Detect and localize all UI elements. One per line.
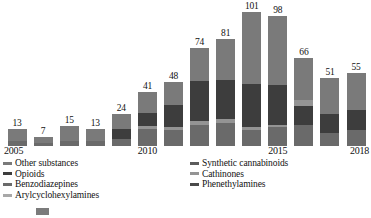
bar-column[interactable]: 15 — [56, 0, 82, 146]
x-axis-tick — [291, 146, 317, 158]
bar-column[interactable]: 13 — [82, 0, 108, 146]
bar-segment — [320, 133, 339, 146]
x-axis-tick — [108, 146, 134, 158]
bar-segment — [242, 130, 261, 146]
bar-segment — [268, 85, 287, 125]
bar-segment — [347, 130, 366, 146]
bar-segment — [294, 106, 313, 125]
bar-stack — [242, 12, 261, 146]
x-axis-tick-label: 2010 — [138, 145, 157, 156]
x-axis-tick: 2018 — [343, 146, 369, 158]
chart-figure: 1371513244148748110198665155 20052010201… — [0, 0, 371, 218]
x-axis-tick: 2005 — [4, 146, 30, 158]
legend-item[interactable]: Benzodiazepines — [3, 179, 99, 190]
bar-value-label: 55 — [352, 62, 361, 72]
legend-column-left: Other substancesOpioidsBenzodiazepinesAr… — [3, 158, 99, 200]
figure-marker-icon — [36, 208, 49, 215]
legend-swatch-icon — [190, 172, 199, 175]
legend-item[interactable]: Arylcyclohexylamines — [3, 190, 99, 201]
x-axis-tick-label: 2018 — [350, 145, 369, 156]
legend-label: Opioids — [15, 169, 44, 179]
bar-segment — [60, 126, 79, 141]
legend-swatch-icon — [3, 172, 12, 175]
bar-stack — [86, 129, 105, 146]
legend-label: Phenethylamines — [202, 179, 265, 189]
bar-value-label: 101 — [245, 1, 259, 11]
bar-segment — [164, 82, 183, 105]
bar-segment — [347, 73, 366, 110]
bar-value-label: 15 — [65, 115, 74, 125]
x-axis-tick — [187, 146, 213, 158]
bar-segment — [216, 123, 235, 146]
bar-segment — [320, 114, 339, 133]
chart-legend: Other substancesOpioidsBenzodiazepinesAr… — [0, 158, 371, 202]
bar-segment — [138, 92, 157, 113]
legend-swatch-icon — [190, 162, 199, 165]
bar-column[interactable]: 81 — [213, 0, 239, 146]
bar-value-label: 13 — [12, 118, 21, 128]
bar-value-label: 13 — [91, 118, 100, 128]
legend-swatch-icon — [3, 194, 12, 197]
bar-segment — [112, 114, 131, 129]
legend-label: Arylcyclohexylamines — [15, 190, 99, 200]
bar-segment — [138, 129, 157, 146]
bar-segment — [347, 110, 366, 130]
x-axis-tick: 2010 — [134, 146, 160, 158]
bar-segment — [138, 113, 157, 126]
x-axis-tick — [317, 146, 343, 158]
bar-segment — [242, 84, 261, 128]
bar-column[interactable]: 41 — [134, 0, 160, 146]
bar-segment — [216, 80, 235, 120]
plot-area: 1371513244148748110198665155 — [0, 0, 371, 146]
legend-item[interactable]: Opioids — [3, 169, 99, 180]
bar-column[interactable]: 13 — [4, 0, 30, 146]
bar-column[interactable]: 7 — [30, 0, 56, 146]
bar-stack — [190, 48, 209, 146]
bar-column[interactable]: 24 — [108, 0, 134, 146]
bar-segment — [320, 78, 339, 114]
x-axis-tick — [213, 146, 239, 158]
bar-segment — [268, 16, 287, 85]
x-axis-tick — [82, 146, 108, 158]
bar-column[interactable]: 66 — [291, 0, 317, 146]
bar-segment — [268, 127, 287, 146]
bar-segment — [190, 48, 209, 81]
bar-stack — [34, 137, 53, 146]
bar-stack — [164, 82, 183, 146]
bar-segment — [242, 12, 261, 84]
bar-segment — [112, 139, 131, 146]
x-axis-tick — [30, 146, 56, 158]
x-axis-tick — [160, 146, 186, 158]
bar-stack — [268, 16, 287, 146]
bar-stack — [60, 126, 79, 146]
legend-item[interactable]: Other substances — [3, 158, 99, 169]
legend-label: Synthetic cannabinoids — [202, 158, 288, 168]
legend-label: Other substances — [15, 158, 78, 168]
legend-item[interactable]: Phenethylamines — [190, 179, 288, 190]
bar-value-label: 24 — [117, 103, 126, 113]
legend-swatch-icon — [190, 183, 199, 186]
bar-value-label: 98 — [273, 5, 282, 15]
legend-item[interactable]: Cathinones — [190, 169, 288, 180]
x-axis-tick-label: 2015 — [268, 145, 287, 156]
bar-segment — [34, 137, 53, 144]
bar-column[interactable]: 48 — [160, 0, 186, 146]
legend-swatch-icon — [3, 183, 12, 186]
bar-stack — [8, 129, 27, 146]
figure-caption — [0, 208, 371, 218]
bar-column[interactable]: 74 — [187, 0, 213, 146]
bar-value-label: 66 — [299, 47, 308, 57]
bar-stack — [138, 92, 157, 146]
bar-column[interactable]: 101 — [239, 0, 265, 146]
bar-column[interactable]: 51 — [317, 0, 343, 146]
bar-stack — [347, 73, 366, 146]
legend-swatch-icon — [3, 162, 12, 165]
bar-segment — [294, 58, 313, 99]
legend-label: Benzodiazepines — [15, 179, 78, 189]
bar-value-label: 74 — [195, 37, 204, 47]
bar-column[interactable]: 98 — [265, 0, 291, 146]
legend-item[interactable]: Synthetic cannabinoids — [190, 158, 288, 169]
bar-column[interactable]: 55 — [343, 0, 369, 146]
bar-segment — [8, 129, 27, 141]
bar-value-label: 51 — [325, 67, 334, 77]
